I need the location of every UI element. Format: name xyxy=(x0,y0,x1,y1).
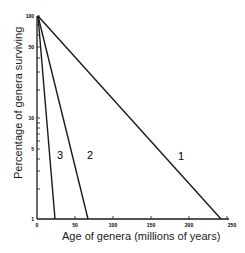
survivorship-chart: 100 50 10 5 1 0 50 100 150 200 250 1 2 3 xyxy=(0,0,245,253)
x-tick-0: 0 xyxy=(36,222,39,228)
y-tick-100: 100 xyxy=(26,13,35,19)
x-tick-200: 200 xyxy=(185,222,194,228)
series-label-2: 2 xyxy=(87,149,93,161)
series-label-1: 1 xyxy=(178,150,184,162)
y-axis-label: Percentage of genera surviving xyxy=(12,39,24,179)
series-line-3 xyxy=(38,16,55,219)
series-line-1 xyxy=(38,16,221,219)
x-axis-label: Age of genera (millions of years) xyxy=(62,230,220,242)
y-tick-10: 10 xyxy=(28,115,34,121)
series-label-3: 3 xyxy=(57,149,63,161)
x-tick-250: 250 xyxy=(228,222,237,228)
series-line-2 xyxy=(38,16,88,219)
y-tick-50: 50 xyxy=(28,44,34,50)
y-tick-5: 5 xyxy=(31,146,34,152)
y-tick-1: 1 xyxy=(31,216,34,222)
x-tick-100: 100 xyxy=(109,222,118,228)
x-tick-150: 150 xyxy=(147,222,156,228)
x-tick-50: 50 xyxy=(72,222,78,228)
